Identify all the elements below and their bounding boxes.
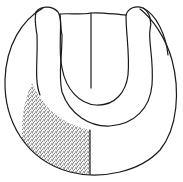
left-lobe <box>35 12 40 95</box>
stippled-region <box>22 83 90 174</box>
top-rim <box>60 13 126 15</box>
u-band-outer <box>36 7 152 126</box>
diagram-figure <box>0 0 183 182</box>
inner-cavity <box>60 14 129 105</box>
